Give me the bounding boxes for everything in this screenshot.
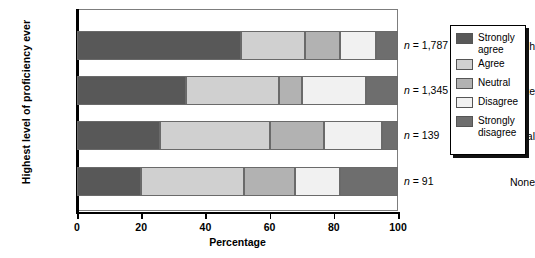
sample-size-label: n = 1,345 bbox=[404, 84, 448, 96]
bar-segment bbox=[305, 31, 340, 60]
bar-row-none bbox=[0, 167, 535, 196]
legend-label: Disagree bbox=[478, 96, 518, 108]
sample-size-label: n = 139 bbox=[404, 129, 439, 141]
legend-swatch bbox=[456, 33, 473, 44]
bar-segment bbox=[382, 121, 398, 150]
legend-item: Neutral bbox=[456, 77, 510, 89]
legend-swatch bbox=[456, 78, 473, 89]
legend-item: Disagree bbox=[456, 96, 518, 108]
bar-segment bbox=[77, 31, 241, 60]
bar-segment bbox=[160, 121, 269, 150]
legend-label: Strongly agree bbox=[478, 32, 515, 55]
chart-root: Highest level of proficiency ever HighMo… bbox=[0, 0, 535, 258]
bar-segment bbox=[340, 31, 375, 60]
legend-label: Neutral bbox=[478, 77, 510, 89]
bar-segment bbox=[141, 167, 244, 196]
x-tick-label: 40 bbox=[185, 221, 225, 233]
bar-segment bbox=[295, 167, 340, 196]
legend-item: Strongly disagree bbox=[456, 115, 516, 138]
bar-segment bbox=[186, 76, 279, 105]
bar-segment bbox=[77, 121, 160, 150]
x-tick-mark bbox=[77, 212, 79, 219]
x-tick-label: 20 bbox=[121, 221, 161, 233]
bar-segment bbox=[270, 121, 325, 150]
legend-swatch bbox=[456, 116, 473, 127]
sample-size-label: n = 91 bbox=[404, 175, 434, 187]
x-tick-mark bbox=[398, 212, 400, 219]
x-tick-mark bbox=[334, 212, 336, 219]
bar-segment bbox=[77, 167, 141, 196]
x-tick-label: 60 bbox=[250, 221, 290, 233]
legend-item: Agree bbox=[456, 58, 505, 70]
sample-size-label: n = 1,787 bbox=[404, 39, 448, 51]
legend-swatch bbox=[456, 59, 473, 70]
x-tick-label: 80 bbox=[314, 221, 354, 233]
bar-segment bbox=[77, 76, 186, 105]
x-tick-mark bbox=[205, 212, 207, 219]
bar-segment bbox=[324, 121, 382, 150]
bar-segment bbox=[302, 76, 366, 105]
x-tick-label: 100 bbox=[378, 221, 418, 233]
legend-label: Strongly disagree bbox=[478, 115, 516, 138]
bar-segment bbox=[244, 167, 295, 196]
x-tick-label: 0 bbox=[57, 221, 97, 233]
bar-segment bbox=[376, 31, 398, 60]
x-axis-line bbox=[76, 212, 399, 215]
legend-item: Strongly agree bbox=[456, 32, 515, 55]
bar-segment bbox=[340, 167, 398, 196]
bar-segment bbox=[279, 76, 301, 105]
bar-segment bbox=[366, 76, 398, 105]
legend-box: Strongly agreeAgreeNeutralDisagreeStrong… bbox=[450, 25, 526, 155]
bar-segment bbox=[241, 31, 305, 60]
legend-swatch bbox=[456, 97, 473, 108]
x-axis-title: Percentage bbox=[77, 236, 398, 248]
x-tick-mark bbox=[141, 212, 143, 219]
x-tick-mark bbox=[270, 212, 272, 219]
legend-label: Agree bbox=[478, 58, 505, 70]
